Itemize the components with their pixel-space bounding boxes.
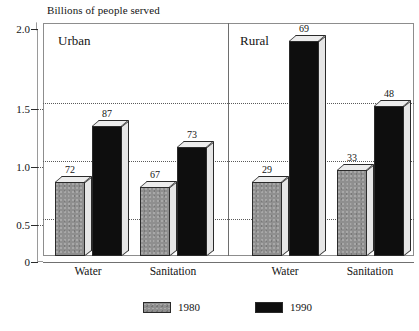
bar-side-face [404,101,411,256]
bar-rural-sanitation-1980[interactable] [337,170,367,256]
legend-item-1980[interactable]: 1980 [143,302,200,313]
bar-rural-water-1990[interactable] [289,41,319,256]
legend-label-1980: 1980 [178,302,200,313]
bar-value-rural-sanitation-1980: 33 [337,153,367,163]
bar-chart: Billions of people served 2.0 1.5 1.0 0.… [0,0,419,331]
bar-front-face [140,187,170,256]
bar-side-face [122,121,129,256]
bar-side-face [170,182,177,256]
bar-urban-water-1990[interactable] [92,126,122,256]
bar-front-face [337,170,367,256]
bars-layer: 72 87 67 73 29 [0,0,419,331]
bar-front-face [177,147,207,256]
bar-value-rural-sanitation-1990: 48 [374,89,404,99]
baseline-band [43,256,414,263]
bar-value-urban-water-1980: 72 [55,165,85,175]
x-label-rural-sanitation: Sanitation [325,265,415,277]
bar-side-face [319,36,326,256]
bar-urban-sanitation-1980[interactable] [140,187,170,256]
axis-baseline [43,256,414,263]
legend-label-1990: 1990 [290,302,312,313]
bar-front-face [55,182,85,256]
legend-swatch-1990 [255,302,283,313]
x-label-rural-water: Water [245,265,325,277]
bar-side-face [207,142,214,256]
bar-value-urban-sanitation-1980: 67 [140,170,170,180]
bar-side-face [282,177,289,256]
bar-value-rural-water-1980: 29 [252,165,282,175]
legend-swatch-1980 [143,302,171,313]
bar-urban-sanitation-1990[interactable] [177,147,207,256]
bar-front-face [92,126,122,256]
bar-front-face [252,182,282,256]
bar-urban-water-1980[interactable] [55,182,85,256]
bar-value-urban-sanitation-1990: 73 [177,130,207,140]
legend-item-1990[interactable]: 1990 [255,302,312,313]
bar-front-face [374,106,404,256]
bar-rural-water-1980[interactable] [252,182,282,256]
bar-value-urban-water-1990: 87 [92,109,122,119]
bar-side-face [367,165,374,256]
x-label-urban-water: Water [48,265,128,277]
bar-rural-sanitation-1990[interactable] [374,106,404,256]
bar-value-rural-water-1990: 69 [289,24,319,34]
x-label-urban-sanitation: Sanitation [128,265,218,277]
bar-front-face [289,41,319,256]
bar-side-face [85,177,92,256]
legend: 1980 1990 [0,300,419,322]
